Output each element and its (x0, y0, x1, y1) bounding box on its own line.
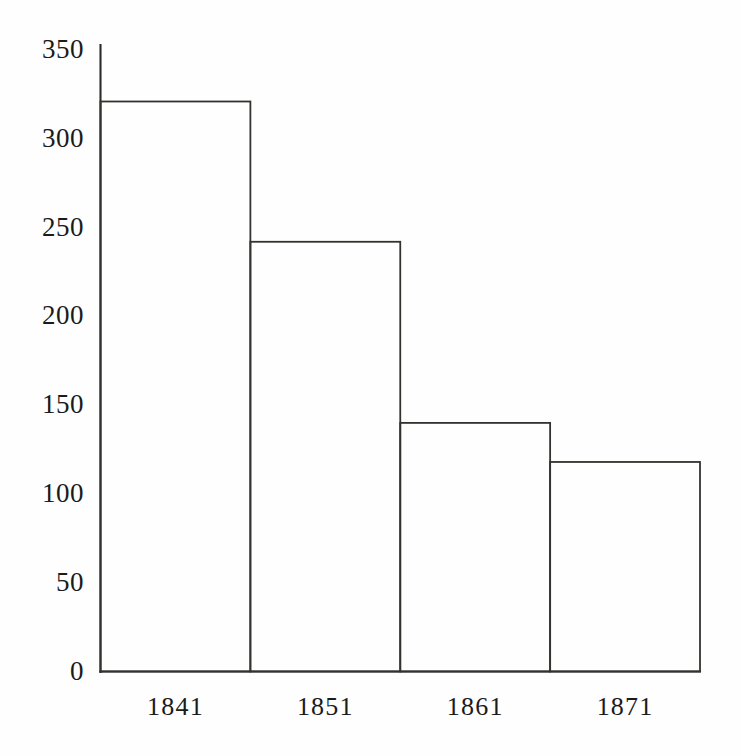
x-tick-label-1841: 1841 (101, 694, 251, 720)
plot-area: 1841: 3211851: 2421861: 1401871: 118 350… (0, 0, 741, 756)
x-axis-tick-labels: 1841185118611871 (0, 0, 741, 756)
x-tick-label-1851: 1851 (250, 694, 400, 720)
bar-chart-figure: 1841: 3211851: 2421861: 1401871: 118 350… (0, 0, 741, 756)
x-tick-label-1871: 1871 (550, 694, 700, 720)
x-tick-label-1861: 1861 (400, 694, 550, 720)
